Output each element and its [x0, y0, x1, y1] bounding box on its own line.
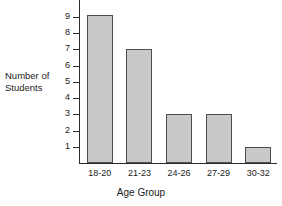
bar — [206, 114, 232, 163]
y-axis-tick — [73, 82, 79, 83]
y-axis-line — [79, 0, 80, 164]
x-axis-title: Age Group — [0, 187, 282, 199]
y-axis-tick-label: 4 — [58, 93, 70, 102]
y-axis-tick-label: 7 — [58, 44, 70, 53]
y-axis-tick — [73, 98, 79, 99]
y-axis-title: Number of Students — [5, 70, 49, 94]
y-axis-tick — [73, 131, 79, 132]
y-axis-tick-label: 9 — [58, 12, 70, 21]
y-axis-tick — [73, 33, 79, 34]
y-axis-tick-label: 8 — [58, 28, 70, 37]
bar — [166, 114, 192, 163]
y-axis-tick — [73, 17, 79, 18]
y-axis-tick-label: 2 — [58, 126, 70, 135]
y-axis-tick — [73, 66, 79, 67]
y-axis-tick — [73, 147, 79, 148]
y-axis-tick — [73, 49, 79, 50]
y-axis-tick — [73, 114, 79, 115]
x-axis-tick-label: 30-32 — [234, 168, 282, 178]
bar — [87, 15, 113, 163]
y-axis-tick-label: 6 — [58, 61, 70, 70]
bar — [126, 49, 152, 163]
x-axis-line — [79, 163, 277, 164]
y-axis-tick-label: 1 — [58, 142, 70, 151]
y-axis-tick-label: 5 — [58, 77, 70, 86]
y-axis-tick-label: 3 — [58, 109, 70, 118]
bar — [245, 147, 271, 163]
bar-chart: 123456789 18-2021-2324-2627-2930-32 Numb… — [0, 0, 282, 206]
